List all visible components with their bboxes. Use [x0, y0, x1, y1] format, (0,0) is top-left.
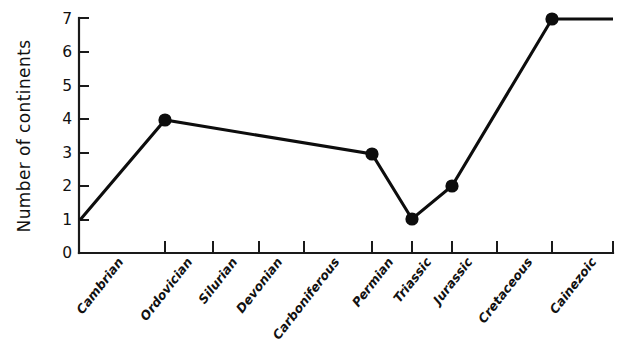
data-marker-permian: [365, 147, 378, 160]
x-tick-label-cretaceous: Cretaceous: [475, 255, 535, 327]
y-axis-ticks: [79, 18, 89, 220]
x-axis-ticks: [165, 241, 613, 253]
y-tick-label: 5: [62, 77, 72, 95]
y-tick-labels: 7 6 5 4 3 2 1 0: [62, 10, 72, 262]
x-tick-label-ordovician: Ordovician: [137, 255, 196, 324]
data-marker-triassic: [405, 212, 418, 225]
y-tick-label: 6: [62, 43, 72, 61]
chart-figure: Number of continents 7 6 5 4 3 2 1 0: [0, 0, 621, 362]
data-marker-ordovician: [158, 113, 171, 126]
y-tick-label: 2: [62, 177, 72, 195]
y-tick-label: 7: [62, 10, 72, 28]
x-tick-label-cainezoic: Cainezoic: [546, 254, 599, 316]
data-markers: [158, 12, 558, 225]
y-tick-label: 1: [62, 211, 72, 229]
x-tick-label-triassic: Triassic: [390, 254, 435, 305]
x-tick-label-devonian: Devonian: [233, 255, 286, 316]
y-tick-label: 0: [62, 244, 72, 262]
y-tick-label: 3: [62, 144, 72, 162]
data-marker-cainezoic: [545, 12, 558, 25]
x-tick-labels: Cambrian Ordovician Silurian Devonian Ca…: [73, 254, 600, 342]
x-tick-label-jurassic: Jurassic: [428, 254, 476, 309]
y-tick-label: 4: [62, 110, 72, 128]
x-tick-label-silurian: Silurian: [195, 255, 240, 307]
line-chart: Number of continents 7 6 5 4 3 2 1 0: [0, 0, 621, 362]
x-tick-label-permian: Permian: [349, 255, 397, 310]
data-marker-jurassic: [445, 179, 458, 192]
y-axis-title: Number of continents: [14, 40, 34, 233]
x-tick-label-cambrian: Cambrian: [73, 255, 126, 317]
